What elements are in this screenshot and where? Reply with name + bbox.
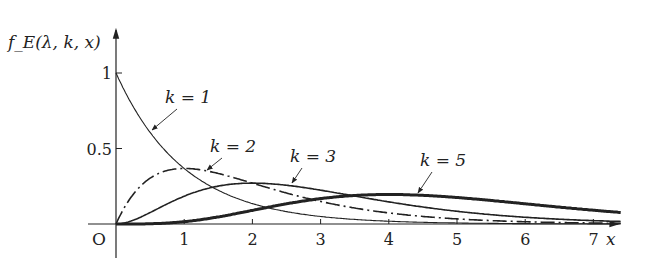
y-tick-label: 1 <box>102 64 112 83</box>
erlang-density-chart: 12345670.51 k = 1k = 2k = 3k = 5 f_E(λ, … <box>0 0 650 273</box>
curve-annotations: k = 1k = 2k = 3k = 5 <box>152 87 466 193</box>
x-tick-label: 2 <box>247 230 257 249</box>
x-tick-label: 5 <box>452 230 462 249</box>
y-axis-label: f_E(λ, k, x) <box>6 32 101 52</box>
annotation-arrow-icon <box>207 158 222 170</box>
x-tick-label: 7 <box>588 230 598 249</box>
annotation-arrow-icon <box>418 172 432 193</box>
origin-label: O <box>92 229 106 249</box>
annotation-arrow-icon <box>152 109 177 130</box>
x-tick-label: 3 <box>316 230 326 249</box>
x-tick-label: 4 <box>384 230 394 249</box>
y-tick-label: 0.5 <box>87 140 112 159</box>
x-tick-label: 1 <box>179 230 189 249</box>
annotation-arrow-icon <box>292 168 302 183</box>
annotation-label: k = 5 <box>420 150 466 170</box>
annotation-label: k = 2 <box>210 136 256 156</box>
x-tick-label: 6 <box>520 230 530 249</box>
annotation-label: k = 3 <box>290 146 336 166</box>
annotation-label: k = 1 <box>165 87 211 107</box>
curve-k3 <box>116 183 621 224</box>
x-axis-label: x <box>606 229 616 249</box>
